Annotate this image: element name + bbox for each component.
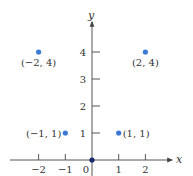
scatter-chart: −2−10121234 (−2, 4)(2, 4)(−1, 1)(1, 1) x… (0, 0, 193, 176)
data-point (89, 157, 94, 162)
x-tick-label: 1 (116, 164, 122, 175)
point-label: (−2, 4) (21, 57, 56, 68)
y-tick-label: 4 (80, 47, 86, 58)
data-point (143, 49, 148, 54)
data-point (63, 130, 68, 135)
x-tick-label: 0 (83, 164, 89, 175)
y-tick-label: 3 (80, 74, 86, 85)
point-label: (2, 4) (132, 57, 159, 68)
y-axis-label: y (87, 9, 95, 22)
x-tick-label: 2 (142, 164, 148, 175)
y-tick-label: 2 (80, 101, 86, 112)
data-point (36, 49, 41, 54)
axes (10, 22, 172, 176)
point-label: (−1, 1) (26, 128, 61, 139)
y-tick-label: 1 (80, 128, 86, 139)
data-point (116, 130, 121, 135)
x-axis-label: x (176, 153, 183, 166)
x-tick-label: −2 (31, 164, 46, 175)
point-label: (1, 1) (123, 128, 150, 139)
data-points: (−2, 4)(2, 4)(−1, 1)(1, 1) (21, 49, 159, 162)
x-tick-label: −1 (58, 164, 73, 175)
